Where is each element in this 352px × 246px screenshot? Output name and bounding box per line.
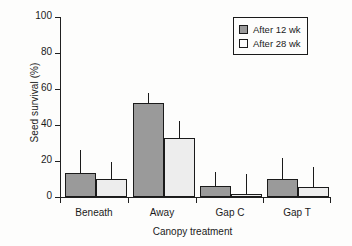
y-tick-100: 100 xyxy=(55,17,60,18)
y-tick-80: 80 xyxy=(55,53,60,54)
error-bar-beneath-after-12wk xyxy=(80,150,81,174)
x-tick-label-away: Away xyxy=(150,207,174,218)
x-tick-sep-1 xyxy=(128,198,129,203)
bar-away-after-12wk xyxy=(133,103,164,197)
y-tick-60: 60 xyxy=(55,89,60,90)
x-tick-sep-3 xyxy=(263,198,264,203)
legend-swatch-icon-after-28wk xyxy=(239,39,248,48)
y-tick-label-0: 0 xyxy=(46,190,52,201)
error-bar-gap-c-after-12wk xyxy=(215,172,216,187)
error-bar-away-after-12wk xyxy=(148,93,149,104)
legend-item-after-28wk: After 28 wk xyxy=(239,36,301,50)
error-bar-beneath-after-28wk xyxy=(111,162,112,180)
bar-gap-t-after-28wk xyxy=(298,187,329,197)
x-axis-label: Canopy treatment xyxy=(55,226,330,237)
bar-gap-t-after-12wk xyxy=(267,179,298,197)
bar-gap-c-after-12wk xyxy=(200,186,231,197)
legend-label-after-12wk: After 12 wk xyxy=(253,24,301,35)
y-axis-label: Seed survival (%) xyxy=(29,23,40,183)
y-tick-20: 20 xyxy=(55,161,60,162)
chart-figure: Seed survival (%) Canopy treatment 0 20 … xyxy=(0,0,352,246)
y-tick-label-60: 60 xyxy=(41,82,52,93)
y-tick-label-40: 40 xyxy=(41,118,52,129)
bar-beneath-after-12wk xyxy=(65,173,96,197)
x-tick-label-beneath: Beneath xyxy=(75,207,112,218)
bar-beneath-after-28wk xyxy=(96,179,127,197)
error-bar-gap-t-after-28wk xyxy=(313,167,314,188)
legend-item-after-12wk: After 12 wk xyxy=(239,22,301,36)
x-tick-right-4 xyxy=(330,198,331,203)
y-tick-40: 40 xyxy=(55,125,60,126)
x-tick-label-gap-c: Gap C xyxy=(216,207,245,218)
error-bar-away-after-28wk xyxy=(179,121,180,139)
y-axis-line xyxy=(60,17,61,198)
legend-swatch-icon-after-12wk xyxy=(239,25,248,34)
y-tick-label-80: 80 xyxy=(41,46,52,57)
error-bar-gap-t-after-12wk xyxy=(282,158,283,180)
y-tick-label-100: 100 xyxy=(35,10,52,21)
legend-label-after-28wk: After 28 wk xyxy=(253,38,301,49)
chart-legend: After 12 wk After 28 wk xyxy=(233,17,308,55)
x-tick-sep-2 xyxy=(196,198,197,203)
x-tick-left-0 xyxy=(60,198,61,203)
x-tick-label-gap-t: Gap T xyxy=(283,207,311,218)
y-tick-label-20: 20 xyxy=(41,154,52,165)
bar-away-after-28wk xyxy=(164,138,195,197)
error-bar-gap-c-after-28wk xyxy=(246,174,247,195)
